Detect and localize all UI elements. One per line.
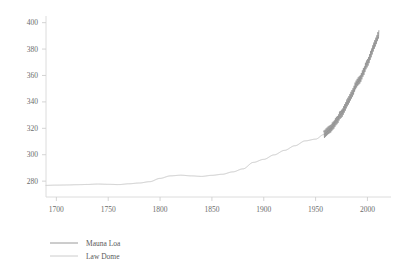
y-tick-label-340: 340 bbox=[27, 97, 39, 106]
y-tick-label-400: 400 bbox=[27, 18, 39, 27]
series-line-law-dome bbox=[46, 42, 376, 186]
y-tick-label-360: 360 bbox=[27, 71, 39, 80]
y-tick-label-380: 380 bbox=[27, 45, 39, 54]
y-tick-label-280: 280 bbox=[27, 177, 39, 186]
legend-label-law-dome: Law Dome bbox=[86, 252, 120, 261]
y-tick-label-320: 320 bbox=[27, 124, 39, 133]
chart-canvas: 2803003203403603804001700175018001850190… bbox=[0, 0, 395, 277]
y-tick-label-300: 300 bbox=[27, 150, 39, 159]
chart-figure: 2803003203403603804001700175018001850190… bbox=[0, 0, 395, 277]
x-tick-label-1800: 1800 bbox=[153, 205, 168, 214]
legend-label-mauna-loa: Mauna Loa bbox=[86, 239, 121, 248]
series-line-mauna-loa bbox=[324, 31, 379, 138]
x-tick-label-1850: 1850 bbox=[204, 205, 219, 214]
x-tick-label-1900: 1900 bbox=[256, 205, 271, 214]
x-tick-label-1700: 1700 bbox=[49, 205, 64, 214]
x-tick-label-2000: 2000 bbox=[360, 205, 375, 214]
x-tick-label-1750: 1750 bbox=[101, 205, 116, 214]
x-tick-label-1950: 1950 bbox=[308, 205, 323, 214]
